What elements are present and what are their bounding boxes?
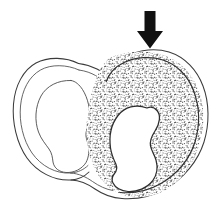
cross-section-diagram: Cross-section diagram of a two-lobed str… — [0, 0, 217, 216]
down-arrow-icon — [137, 11, 163, 49]
left-lobe — [13, 58, 89, 180]
right-lobe — [80, 44, 215, 206]
left-lobe-cavity — [36, 80, 90, 172]
figure-root: Cross-section diagram of a two-lobed str… — [0, 0, 217, 216]
arrow-shaft-and-head — [137, 11, 163, 49]
